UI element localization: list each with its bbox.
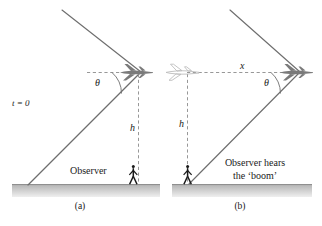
distance-label-b: x — [240, 60, 244, 72]
ground-strip-a — [12, 184, 160, 197]
observer-hears-line2: the ‘boom’ — [206, 170, 304, 183]
angle-label-b: θ — [264, 77, 269, 89]
observer-hears-line1: Observer hears — [206, 157, 304, 170]
figure-vector-layer — [0, 0, 322, 226]
height-label-b: h — [179, 118, 184, 130]
angle-arc-b — [271, 73, 281, 94]
panel-caption-a: (a) — [55, 201, 105, 212]
time-zero-label: t = 0 — [12, 98, 30, 108]
ground-strip-b — [172, 184, 312, 197]
shock-line-upper-a — [62, 10, 141, 72]
observer-label-a: Observer — [70, 165, 107, 177]
height-label-a: h — [130, 122, 135, 134]
panel-caption-b: (b) — [215, 201, 265, 212]
angle-arc-a — [112, 73, 122, 94]
airplane-icon-b — [280, 64, 313, 81]
standing-person-icon-a — [129, 165, 137, 184]
airplane-icon-a — [120, 64, 153, 81]
sonic-boom-figure: t = 0 θ h Observer (a) x θ h Observer he… — [0, 0, 322, 226]
angle-label-a: θ — [95, 77, 100, 89]
